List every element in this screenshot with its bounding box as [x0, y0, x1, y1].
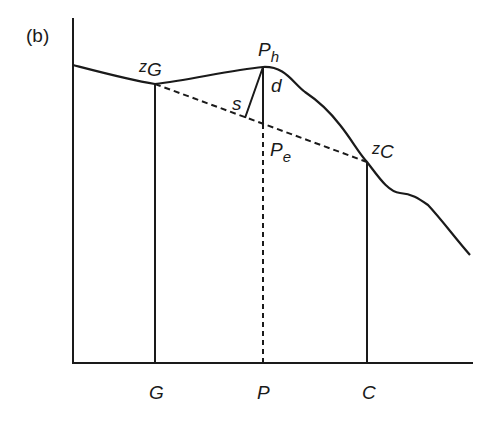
axis-label-P: P — [257, 383, 270, 402]
label-Ph: Ph — [258, 40, 279, 59]
label-zC-base: z — [372, 140, 380, 157]
axis-label-C: C — [362, 383, 376, 402]
label-d: d — [271, 76, 282, 95]
label-zC-sub: C — [380, 141, 394, 162]
label-Pe: Pe — [270, 140, 291, 159]
label-zG-base: z — [139, 58, 147, 75]
label-Ph-base: P — [258, 39, 271, 60]
segment-s — [245, 67, 263, 118]
label-zC: zC — [372, 138, 394, 157]
label-s: s — [232, 94, 242, 113]
panel-label: (b) — [26, 26, 49, 45]
dashed-line-zG-zC — [155, 84, 367, 162]
label-zG: zG — [139, 56, 162, 75]
label-Pe-base: P — [270, 139, 283, 160]
label-Ph-sub: h — [271, 48, 279, 65]
diagram-canvas — [0, 0, 500, 425]
label-zG-sub: G — [147, 59, 162, 80]
label-Pe-sub: e — [283, 148, 291, 165]
axis-label-G: G — [149, 383, 164, 402]
